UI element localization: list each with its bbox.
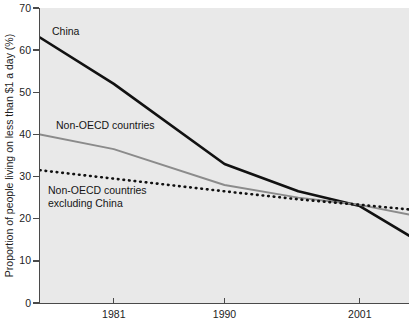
y-tick-40 xyxy=(33,134,39,135)
x-tick-2001 xyxy=(359,298,360,304)
x-tick-1981 xyxy=(113,298,114,304)
y-tick-30 xyxy=(33,176,39,177)
x-tick-label-1981: 1981 xyxy=(79,309,149,320)
y-axis-line xyxy=(39,8,40,304)
series-label-china: China xyxy=(52,25,79,38)
y-axis-title: Proportion of people living on less than… xyxy=(2,8,16,303)
x-tick-1990 xyxy=(224,298,225,304)
plot-svg xyxy=(40,8,409,303)
series-label-non-oecd: Non-OECD countries xyxy=(56,119,155,132)
y-tick-50 xyxy=(33,92,39,93)
plot-area xyxy=(40,8,409,303)
y-tick-10 xyxy=(33,260,39,261)
y-tick-60 xyxy=(33,49,39,50)
y-tick-20 xyxy=(33,218,39,219)
chart-figure: 010203040506070 198119902001 Proportion … xyxy=(0,0,415,332)
x-tick-label-2001: 2001 xyxy=(325,309,395,320)
series-label-non-oecd-excluding-china: Non-OECD countries excluding China xyxy=(48,184,147,209)
y-tick-70 xyxy=(33,7,39,8)
y-tick-0 xyxy=(33,302,39,303)
x-tick-label-1990: 1990 xyxy=(190,309,260,320)
